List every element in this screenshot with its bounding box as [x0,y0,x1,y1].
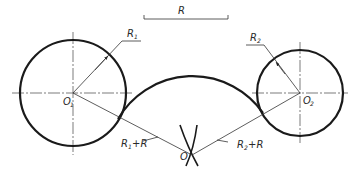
svg-text:2: 2 [257,37,261,44]
svg-text:R: R [237,139,244,150]
svg-text:1: 1 [70,101,74,108]
svg-text:R: R [121,138,128,149]
tangent-arc-r [118,76,263,119]
r1-label: R [127,28,134,39]
r2-leader: R 2 [246,32,300,93]
tangent-arc-diagram: R R 1 R 2 O 1 O 2 O R 1 [0,0,361,173]
svg-text:1: 1 [134,33,138,40]
o-label: O [180,151,188,162]
r1-plus-r-annotation: R 1 +R [121,137,158,150]
r1-leader: R 1 [73,28,141,93]
r2-plus-r-annotation: R 2 +R [217,139,263,151]
scale-bar-label: R [178,5,185,16]
r2-label: R [250,32,257,43]
svg-text:+R: +R [132,138,147,149]
circle-o1 [12,32,134,155]
svg-text:+R: +R [248,139,263,150]
radius-scale-bar: R [144,5,228,19]
svg-text:2: 2 [310,100,314,107]
